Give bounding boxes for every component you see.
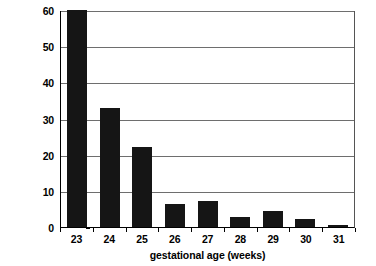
x-axis-tick-mark [93, 228, 94, 232]
y-axis-tick-label: 60 [30, 5, 54, 17]
x-axis-tick-mark [355, 228, 356, 232]
x-axis-tick-labels: 232425262728293031 [60, 233, 355, 248]
x-axis-tick-mark [224, 228, 225, 232]
x-axis-tick-label: 27 [191, 233, 224, 248]
bar [198, 201, 218, 227]
x-axis-tick-mark [191, 228, 192, 232]
x-axis-tick-label: 30 [289, 233, 322, 248]
bar [295, 219, 315, 227]
bar-slot [126, 11, 159, 227]
bar-slot [256, 11, 289, 227]
x-axis-tick-label: 23 [60, 233, 93, 248]
y-axis-tick-label: 10 [30, 186, 54, 198]
x-axis-tick-label: 25 [126, 233, 159, 248]
x-axis-title: gestational age (weeks) [60, 249, 355, 261]
x-axis-tick-mark [158, 228, 159, 232]
bar [230, 217, 250, 227]
bar [263, 211, 283, 227]
x-axis-tick-label: 29 [257, 233, 290, 248]
bar-slot [224, 11, 257, 227]
bar-slot [61, 11, 94, 227]
bar-chart: % of survivors discharged home on oxygen… [0, 0, 376, 266]
x-axis-tick-label: 31 [322, 233, 355, 248]
plot-area [60, 11, 355, 228]
bar [165, 204, 185, 227]
y-axis-tick-label: 50 [30, 41, 54, 53]
x-axis-tick-mark [322, 228, 323, 232]
bar [67, 10, 87, 227]
bar-slot [322, 11, 355, 227]
bar-slot [94, 11, 127, 227]
x-axis-tick-mark [257, 228, 258, 232]
x-axis-tick-label: 28 [224, 233, 257, 248]
bar-slot [289, 11, 322, 227]
y-axis-tick-label: 0 [30, 222, 54, 234]
bar [132, 147, 152, 227]
y-axis-tick-label: 40 [30, 77, 54, 89]
y-axis-tick-label: 30 [30, 114, 54, 126]
y-axis-tick-label: 20 [30, 150, 54, 162]
x-axis-tick-label: 24 [93, 233, 126, 248]
x-axis-tick-mark [289, 228, 290, 232]
x-axis-tick-mark [60, 228, 61, 232]
bars-layer [61, 11, 354, 227]
bar [328, 225, 348, 227]
y-axis-tick-labels: 0102030405060 [30, 11, 54, 228]
bar [100, 108, 120, 227]
x-axis-tick-mark [126, 228, 127, 232]
x-axis-tick-label: 26 [158, 233, 191, 248]
bar-slot [191, 11, 224, 227]
bar-slot [159, 11, 192, 227]
